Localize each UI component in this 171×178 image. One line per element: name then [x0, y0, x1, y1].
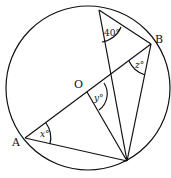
- chord-A-C: [25, 138, 127, 161]
- angle-label-40: 40°: [104, 28, 120, 38]
- point-label-O: O: [74, 78, 83, 91]
- circle: [6, 6, 170, 170]
- diameter-AB: [25, 44, 151, 138]
- angle-label-z: z°: [134, 60, 144, 70]
- circle-geometry-diagram: A B O 40° x° y° z°: [0, 0, 171, 178]
- angle-label-y: y°: [93, 93, 104, 103]
- point-label-A: A: [11, 136, 21, 149]
- angle-label-x: x°: [40, 129, 50, 139]
- point-label-B: B: [155, 33, 163, 46]
